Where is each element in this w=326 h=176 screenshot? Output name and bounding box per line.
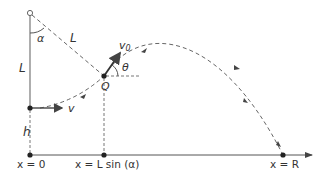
swing-arrow-icon xyxy=(80,94,86,99)
launch-point xyxy=(27,105,32,110)
projectile-arrow-1-icon xyxy=(141,48,147,53)
x0-label: x = 0 xyxy=(17,158,45,170)
q-point xyxy=(101,73,106,78)
xlsin-label: x = L sin (α) xyxy=(75,158,139,170)
xr-label: x = R xyxy=(270,158,299,170)
projectile-arrow-3-icon xyxy=(243,98,248,103)
projectile-arrow-2-icon xyxy=(234,65,240,70)
v-label: v xyxy=(68,102,75,115)
lsin-point xyxy=(101,152,106,157)
projectile-path xyxy=(104,43,283,155)
origin-point xyxy=(27,152,32,157)
theta-label: θ xyxy=(122,61,129,74)
pivot-point xyxy=(27,10,32,15)
theta-arc xyxy=(112,65,118,76)
h-label: h xyxy=(23,125,31,139)
pendulum-rope xyxy=(32,15,104,76)
alpha-label: α xyxy=(37,32,45,45)
rope-length-label: L xyxy=(70,31,77,45)
physics-diagram: α L L v0 θ Q v h x = 0 x = L sin (α) x =… xyxy=(0,0,326,176)
q-label: Q xyxy=(101,80,110,93)
ground-axis-arrow-icon xyxy=(305,152,313,158)
vertical-length-label: L xyxy=(19,61,26,75)
range-point xyxy=(280,152,285,157)
v0-label: v0 xyxy=(119,39,131,53)
